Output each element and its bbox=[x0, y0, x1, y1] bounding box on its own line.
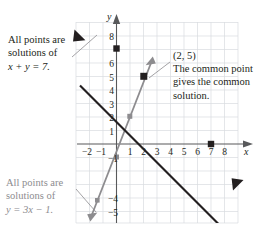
x-tick-3: 3 bbox=[155, 147, 160, 157]
y-tick-3: 3 bbox=[109, 100, 114, 110]
line-black-arrowheads bbox=[73, 30, 244, 191]
line-y-equals-3x-minus-1 bbox=[92, 63, 151, 215]
black-line-arrow-upleft bbox=[73, 30, 85, 42]
x-tick--1: −1 bbox=[96, 147, 106, 157]
gray-line-arrow-up bbox=[146, 57, 156, 66]
leader-bottom-left bbox=[76, 189, 96, 212]
annotation-top-left-line2: solutions of bbox=[8, 46, 65, 59]
x-tick-8: 8 bbox=[222, 147, 227, 157]
axis-lines bbox=[77, 22, 247, 223]
annotation-bottom-left: All points are solutions of y = 3x − 1. bbox=[6, 176, 63, 216]
point-2-5 bbox=[140, 73, 147, 80]
x-tick-7: 7 bbox=[209, 147, 214, 157]
intersection-point-label: (2, 5) bbox=[173, 49, 196, 62]
y-tick-8: 8 bbox=[109, 32, 114, 42]
black-line-arrow-downright bbox=[232, 178, 244, 190]
y-tick-5: 5 bbox=[109, 73, 114, 83]
y-tick-6: 6 bbox=[109, 59, 114, 69]
annotation-right-line1: The common point bbox=[173, 62, 253, 75]
x-tick-6: 6 bbox=[195, 147, 200, 157]
x-tick-labels: −2 −1 1 2 3 4 5 6 7 8 bbox=[82, 147, 227, 157]
line-x-plus-y-equals-7 bbox=[80, 86, 241, 234]
gray-line-arrow-down bbox=[87, 213, 97, 222]
y-axis-letter: y bbox=[106, 11, 112, 22]
leader-right bbox=[149, 62, 170, 78]
point-0-7 bbox=[113, 45, 119, 51]
annotation-bottom-left-equation: y = 3x − 1. bbox=[6, 203, 63, 216]
leader-lines bbox=[72, 35, 170, 212]
graph-figure: y x −2 −1 1 2 3 4 5 6 7 8 8 6 5 4 3 2 1 … bbox=[0, 0, 263, 233]
annotation-bottom-left-line2: solutions of bbox=[6, 189, 63, 202]
annotation-bottom-left-line1: All points are bbox=[6, 176, 63, 189]
y-tick-2: 2 bbox=[109, 113, 114, 123]
point-1-2 bbox=[127, 114, 132, 119]
annotation-top-left: All points are solutions of x + y = 7. bbox=[8, 33, 65, 73]
y-tick--1: −1 bbox=[108, 154, 118, 164]
y-tick--5: −5 bbox=[108, 208, 118, 218]
y-tick-4: 4 bbox=[109, 86, 114, 96]
y-tick-1: 1 bbox=[109, 127, 114, 137]
annotation-right-line2: gives the common bbox=[173, 75, 253, 88]
y-axis-arrow bbox=[113, 14, 120, 24]
annotation-top-left-equation: x + y = 7. bbox=[8, 60, 65, 73]
x-tick-2: 2 bbox=[141, 147, 146, 157]
x-tick--2: −2 bbox=[82, 147, 92, 157]
x-axis-letter: x bbox=[243, 146, 249, 157]
annotation-top-left-line1: All points are bbox=[8, 33, 65, 46]
y-tick--4: −4 bbox=[108, 194, 118, 204]
x-tick-4: 4 bbox=[168, 147, 173, 157]
point-minus-1-5-minus-5-5 bbox=[95, 198, 100, 203]
x-tick-1: 1 bbox=[128, 147, 133, 157]
x-tick-5: 5 bbox=[182, 147, 187, 157]
annotation-right-line3: solution. bbox=[173, 89, 253, 102]
annotation-right: The common point gives the common soluti… bbox=[173, 62, 253, 102]
